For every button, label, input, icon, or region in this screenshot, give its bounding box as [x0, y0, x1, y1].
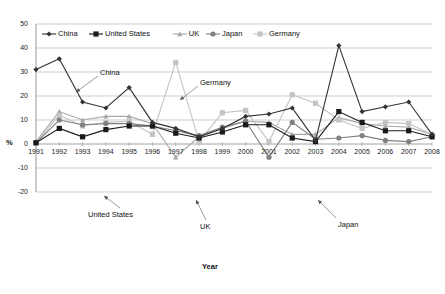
- data-point-marker: [93, 31, 98, 36]
- y-tick-label: 20: [6, 92, 28, 99]
- x-tick-label: 1993: [70, 148, 96, 155]
- legend-item-united-states[interactable]: United States: [105, 29, 150, 38]
- data-point-marker: [360, 109, 365, 114]
- data-point-marker: [243, 114, 248, 119]
- x-tick-label: 1992: [46, 148, 72, 155]
- gridlines: [36, 24, 432, 192]
- data-point-marker: [360, 133, 365, 138]
- data-point-marker: [383, 104, 388, 109]
- data-point-marker: [266, 155, 271, 160]
- x-tick-label: 2003: [303, 148, 329, 155]
- annotation-arrowhead: [180, 96, 184, 100]
- data-point-marker: [220, 110, 225, 115]
- data-point-marker: [243, 108, 248, 113]
- data-point-marker: [57, 117, 62, 122]
- data-point-marker: [173, 131, 178, 136]
- data-point-marker: [266, 139, 271, 144]
- data-point-marker: [336, 135, 341, 140]
- x-tick-label: 2004: [326, 148, 352, 155]
- annotation-arrowhead: [104, 196, 108, 200]
- y-tick-label: -10: [6, 164, 28, 171]
- y-tick-label: 40: [6, 44, 28, 51]
- data-point-marker: [290, 120, 295, 125]
- series-line: [36, 62, 432, 142]
- x-tick-label: 1994: [93, 148, 119, 155]
- data-point-marker: [360, 120, 365, 125]
- data-point-marker: [80, 99, 85, 104]
- x-tick-label: 2000: [233, 148, 259, 155]
- data-point-marker: [210, 31, 215, 36]
- x-axis-title: Year: [202, 262, 218, 271]
- data-point-marker: [57, 56, 62, 61]
- data-point-marker: [336, 43, 341, 48]
- x-tick-label: 1998: [186, 148, 212, 155]
- annotation-arrow: [76, 76, 98, 92]
- series-layer: [33, 43, 434, 160]
- data-point-marker: [406, 139, 411, 144]
- data-point-marker: [383, 138, 388, 143]
- annotation-japan: Japan: [338, 220, 358, 229]
- legend-item-china[interactable]: China: [58, 29, 78, 38]
- data-point-marker: [243, 122, 248, 127]
- data-point-marker: [290, 135, 295, 140]
- series-germany: [33, 60, 434, 146]
- data-point-marker: [33, 67, 38, 72]
- data-point-marker: [103, 121, 108, 126]
- annotation-germany: Germany: [200, 78, 231, 87]
- x-tick-label: 2005: [349, 148, 375, 155]
- y-tick-label: 30: [6, 68, 28, 75]
- data-point-marker: [57, 113, 62, 118]
- data-point-marker: [266, 122, 271, 127]
- y-axis-title: %: [6, 138, 13, 147]
- data-point-marker: [406, 121, 411, 126]
- data-point-marker: [57, 126, 62, 131]
- data-point-marker: [360, 126, 365, 131]
- x-tick-label: 1991: [23, 148, 49, 155]
- data-point-marker: [336, 117, 341, 122]
- x-tick-label: 2007: [396, 148, 422, 155]
- data-point-marker: [103, 127, 108, 132]
- data-point-marker: [80, 134, 85, 139]
- annotation-uk: UK: [200, 222, 210, 231]
- data-point-marker: [266, 111, 271, 116]
- x-tick-label: 1995: [116, 148, 142, 155]
- legend-item-uk[interactable]: UK: [189, 29, 199, 38]
- data-point-marker: [290, 92, 295, 97]
- y-tick-label: 10: [6, 116, 28, 123]
- x-tick-label: 2002: [279, 148, 305, 155]
- data-point-marker: [80, 122, 85, 127]
- legend-item-japan[interactable]: Japan: [222, 29, 242, 38]
- data-point-marker: [127, 123, 132, 128]
- data-point-marker: [336, 109, 341, 114]
- series-united-states: [33, 109, 434, 145]
- x-tick-label: 1996: [139, 148, 165, 155]
- data-point-marker: [46, 31, 51, 36]
- x-tick-label: 2006: [372, 148, 398, 155]
- x-tick-label: 1999: [209, 148, 235, 155]
- y-tick-label: -20: [6, 188, 28, 195]
- x-tick-label: 1997: [163, 148, 189, 155]
- data-point-marker: [33, 140, 38, 145]
- legend-item-germany[interactable]: Germany: [269, 29, 300, 38]
- data-point-marker: [406, 128, 411, 133]
- annotation-united-states: United States: [88, 210, 133, 219]
- data-point-marker: [383, 128, 388, 133]
- data-point-marker: [257, 31, 262, 36]
- data-point-marker: [150, 132, 155, 137]
- data-point-marker: [313, 101, 318, 106]
- y-tick-label: 50: [6, 20, 28, 27]
- x-tick-label: 2008: [419, 148, 445, 155]
- data-point-marker: [383, 120, 388, 125]
- annotation-china: China: [100, 68, 120, 77]
- x-tick-label: 2001: [256, 148, 282, 155]
- data-point-marker: [173, 60, 178, 65]
